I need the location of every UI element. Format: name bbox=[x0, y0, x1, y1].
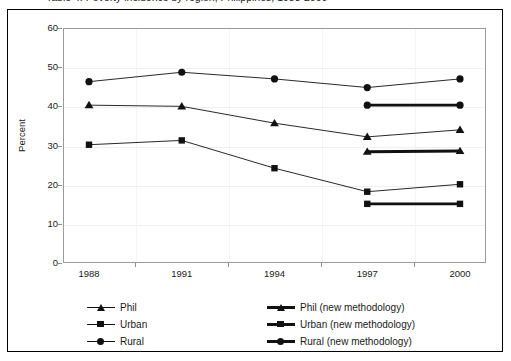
data-point-marker-square bbox=[457, 181, 463, 187]
legend-item-urban[interactable]: Urban bbox=[86, 315, 147, 332]
x-axis-tick-mark bbox=[228, 263, 229, 267]
series-rural-new-methodology bbox=[364, 102, 464, 109]
y-axis-tick-mark bbox=[58, 67, 62, 68]
data-point-marker-circle bbox=[271, 75, 278, 82]
clipped-title-strip: Table 4. Poverty incidence by region, Ph… bbox=[0, 0, 511, 9]
x-axis-tick-label: 1997 bbox=[342, 268, 392, 279]
legend-label: Rural (new methodology) bbox=[300, 336, 412, 347]
y-axis-tick-label: 40 bbox=[36, 101, 58, 111]
series-phil-new-methodology bbox=[363, 147, 465, 155]
legend-item-rural-new-methodology[interactable]: Rural (new methodology) bbox=[266, 332, 415, 349]
legend-label: Urban bbox=[120, 319, 147, 330]
y-axis-tick-label: 10 bbox=[36, 219, 58, 229]
legend-label: Urban (new methodology) bbox=[300, 319, 415, 330]
legend-column-new-methodology: Phil (new methodology)Urban (new methodo… bbox=[266, 298, 415, 349]
data-point-marker-circle bbox=[456, 102, 463, 109]
chart-legend: PhilUrbanRural Phil (new methodology)Urb… bbox=[8, 298, 502, 350]
series-phil bbox=[85, 101, 465, 140]
legend-swatch-circle-icon bbox=[266, 336, 296, 348]
data-point-marker-square bbox=[271, 165, 277, 171]
legend-swatch-triangle-icon bbox=[86, 302, 116, 314]
y-axis-title: Percent bbox=[16, 106, 27, 166]
data-point-marker-circle bbox=[456, 75, 463, 82]
y-axis-tick-label: 30 bbox=[36, 141, 58, 151]
y-axis-tick-labels: 0102030405060 bbox=[30, 28, 58, 263]
legend-marker-circle-icon bbox=[277, 338, 284, 345]
data-point-marker-square bbox=[364, 201, 370, 207]
data-point-marker-square bbox=[364, 189, 370, 195]
series-layer bbox=[63, 28, 486, 263]
y-axis-tick-mark bbox=[58, 263, 62, 264]
legend-marker-circle-icon bbox=[97, 338, 104, 345]
y-axis-tick-label: 0 bbox=[36, 258, 58, 268]
series-rural bbox=[85, 69, 463, 91]
legend-item-rural[interactable]: Rural bbox=[86, 332, 147, 349]
legend-column-original: PhilUrbanRural bbox=[86, 298, 147, 349]
x-axis-tick-mark bbox=[135, 263, 136, 267]
x-axis-tick-label: 1994 bbox=[250, 268, 300, 279]
x-axis-tick-label: 1988 bbox=[64, 268, 114, 279]
data-point-marker-triangle bbox=[85, 101, 94, 108]
y-axis-tick-label: 50 bbox=[36, 62, 58, 72]
y-axis-tick-mark bbox=[58, 28, 62, 29]
data-point-marker-circle bbox=[85, 78, 92, 85]
y-axis-tick-label: 60 bbox=[36, 23, 58, 33]
y-axis-tick-mark bbox=[58, 106, 62, 107]
data-point-marker-circle bbox=[178, 69, 185, 76]
series-urban-new-methodology bbox=[364, 201, 463, 207]
legend-swatch-square-icon bbox=[266, 319, 296, 331]
y-axis-tick-mark bbox=[58, 146, 62, 147]
legend-label: Phil (new methodology) bbox=[300, 302, 405, 313]
x-axis-tick-label: 2000 bbox=[435, 268, 485, 279]
legend-item-urban-new-methodology[interactable]: Urban (new methodology) bbox=[266, 315, 415, 332]
x-axis-tick-mark bbox=[414, 263, 415, 267]
legend-item-phil[interactable]: Phil bbox=[86, 298, 147, 315]
data-point-marker-circle bbox=[364, 84, 371, 91]
y-axis-tick-label: 20 bbox=[36, 180, 58, 190]
chart-figure-frame: Percent 0102030405060 198819911994199720… bbox=[7, 9, 503, 352]
legend-marker-square-icon bbox=[277, 321, 284, 328]
y-axis-tick-mark bbox=[58, 224, 62, 225]
x-axis-tick-mark bbox=[321, 263, 322, 267]
legend-item-phil-new-methodology[interactable]: Phil (new methodology) bbox=[266, 298, 415, 315]
legend-swatch-triangle-icon bbox=[266, 302, 296, 314]
data-point-marker-square bbox=[86, 142, 92, 148]
legend-marker-square-icon bbox=[97, 321, 104, 328]
data-point-marker-triangle bbox=[456, 126, 465, 133]
legend-marker-triangle-icon bbox=[277, 304, 285, 311]
plot-wrapper: Percent 0102030405060 198819911994199720… bbox=[8, 10, 502, 351]
legend-label: Phil bbox=[120, 302, 137, 313]
data-point-marker-triangle bbox=[177, 102, 186, 109]
data-point-marker-square bbox=[179, 137, 185, 143]
chart-title: Table 4. Poverty incidence by region, Ph… bbox=[46, 0, 327, 3]
series-urban bbox=[86, 137, 463, 195]
legend-swatch-square-icon bbox=[86, 319, 116, 331]
data-point-marker-square bbox=[457, 201, 463, 207]
legend-swatch-circle-icon bbox=[86, 336, 116, 348]
y-axis-tick-mark bbox=[58, 185, 62, 186]
legend-label: Rural bbox=[120, 336, 144, 347]
x-axis-tick-label: 1991 bbox=[157, 268, 207, 279]
series-line bbox=[367, 151, 460, 152]
data-point-marker-circle bbox=[364, 102, 371, 109]
legend-marker-triangle-icon bbox=[97, 304, 105, 311]
